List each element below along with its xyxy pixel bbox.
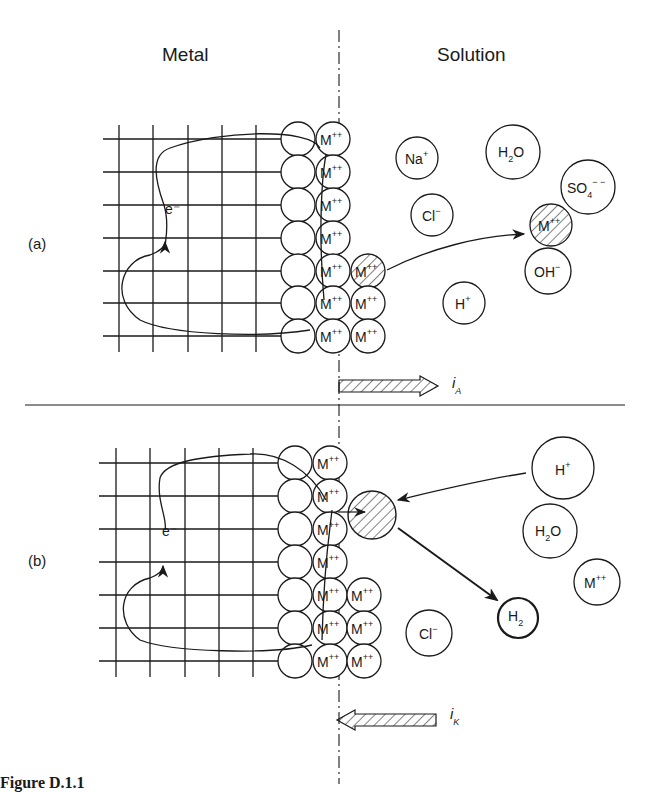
metal-atoms-a (281, 122, 315, 353)
electron-return-a (122, 242, 310, 334)
ion-h-large: H+ (532, 437, 594, 499)
figure-caption: Figure D.1.1 (0, 774, 85, 792)
electron-label-b: e⁻ (162, 523, 177, 539)
svg-text:iA: iA (452, 374, 461, 396)
panel-a-label: (a) (28, 235, 46, 252)
ion-m-b: M++ (574, 559, 620, 605)
panel-b-label: (b) (28, 552, 46, 569)
ion-cl-b: Cl− (406, 610, 452, 656)
ion-na: Na+ (396, 137, 438, 179)
solution-header: Solution (437, 44, 506, 65)
anodic-current-arrow: iA (339, 374, 461, 396)
ion-h2o: H2O (486, 125, 540, 179)
ion-so4: SO4− − (561, 160, 615, 214)
solution-ions-b: H+ H2O M++ H2 Cl− (406, 437, 620, 656)
molecule-h2: H2 (498, 598, 538, 638)
outer-ions-b: M++ M++ M++ (347, 578, 381, 678)
hydrogen-evolution-arrow (398, 528, 497, 600)
panel-a: (a) M++ M++ (28, 122, 615, 396)
dissolution-arrow (387, 234, 524, 270)
ion-cl: Cl− (411, 194, 453, 236)
solution-ions-a: Na+ H2O SO4− − Cl− M++ OH− H+ (396, 125, 615, 324)
ion-oh: OH− (525, 248, 571, 294)
surface-ions-b: M++ M++ M++ M++ M++ M++ M++ (313, 446, 347, 678)
metal-header: Metal (162, 44, 208, 65)
metal-lattice-b (99, 448, 278, 677)
svg-text:iK: iK (450, 705, 460, 727)
panel-b: (b) M++ M++ M++ (28, 437, 620, 730)
departing-ion-origin: M++ (351, 254, 385, 288)
cathodic-current-arrow: iK (337, 705, 460, 730)
reaction-site (348, 491, 396, 539)
ion-m-hatched: M++ (530, 204, 572, 246)
metal-atoms-b (278, 446, 312, 678)
ion-h: H+ (443, 282, 485, 324)
ion-h2o-b: H2O (523, 504, 577, 558)
proton-approach-arrow (398, 473, 526, 500)
outer-ions-a: M++ M++ M++ (351, 254, 385, 353)
metal-lattice-a (103, 125, 282, 352)
electron-label-a: e⁻ (165, 201, 180, 217)
